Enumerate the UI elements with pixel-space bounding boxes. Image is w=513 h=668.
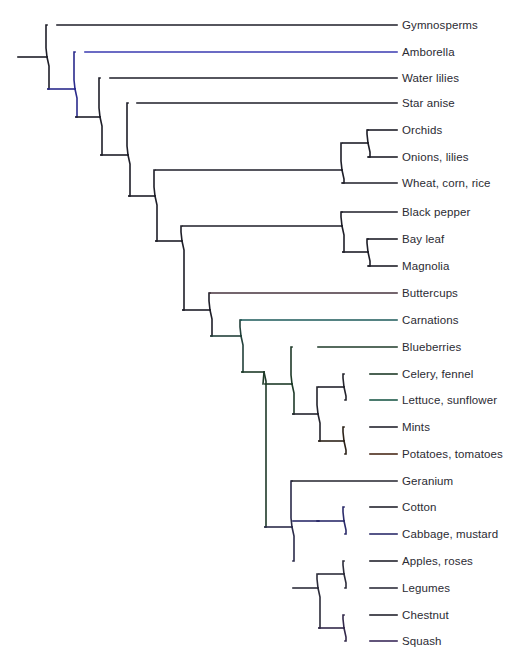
fork-lower-apple-legume [344, 574, 346, 588]
fork-lower-aster-rosid [264, 372, 266, 527]
fork-upper-eudicot-stem [181, 226, 182, 241]
fork-lower-core-eudicots [241, 336, 243, 372]
tip-label-apples-roses: Apples, roses [402, 555, 473, 567]
fork-lower-chestnut-squash [344, 628, 346, 641]
fork-lower-mesangiosperms [100, 117, 102, 155]
tip-label-squash: Squash [402, 635, 442, 647]
fork-lower-eudicots [210, 310, 212, 336]
tip-label-blueberries: Blueberries [402, 341, 461, 353]
tip-label-potatoes-tomatoes: Potatoes, tomatoes [402, 448, 503, 460]
fork-upper-monocots [341, 143, 342, 170]
fork-lower-root [47, 57, 49, 89]
fork-upper-celery-lettuce [343, 374, 344, 387]
tip-label-star-anise: Star anise [402, 97, 455, 109]
fork-lower-fabids [318, 588, 320, 628]
fork-upper-post-starAnise [127, 103, 128, 155]
fork-lower-mint-potato [344, 441, 346, 454]
fork-lower-rosids [292, 527, 294, 561]
fork-lower-angiosperms [75, 89, 77, 117]
fork-lower-asterids [292, 384, 294, 414]
fork-upper-orchid-onion [367, 130, 368, 143]
tip-label-buttercups: Buttercups [402, 287, 458, 299]
fork-lower-post-starAnise [128, 155, 130, 196]
tip-label-water-lilies: Water lilies [402, 72, 459, 84]
tip-label-chestnut: Chestnut [402, 609, 449, 621]
tip-label-geranium: Geranium [402, 475, 453, 487]
fork-lower-magnoliids [342, 226, 344, 252]
fork-lower-eudicot-stem [182, 241, 184, 310]
fork-upper-chestnut-squash [343, 615, 344, 628]
branch-layer [18, 25, 397, 641]
fork-upper-fabids [317, 574, 318, 588]
fork-lower-orchid-onion [368, 143, 370, 157]
fork-upper-mint-potato [343, 427, 344, 441]
fork-upper-rosids [291, 481, 292, 527]
tip-label-lettuce-sunflower: Lettuce, sunflower [402, 394, 497, 406]
tip-label-orchids: Orchids [402, 124, 442, 136]
fork-upper-bay-magnolia [367, 239, 368, 252]
fork-upper-root [46, 25, 47, 57]
tip-label-mints: Mints [402, 421, 430, 433]
tip-label-onions-lilies: Onions, lilies [402, 151, 469, 163]
tip-label-carnations: Carnations [402, 314, 459, 326]
tip-label-black-pepper: Black pepper [402, 206, 470, 218]
tip-label-gymnosperms: Gymnosperms [402, 19, 478, 31]
fork-upper-angiosperms [74, 52, 75, 89]
fork-upper-apple-legume [343, 561, 344, 574]
fork-lower-bay-magnolia [368, 252, 370, 266]
fork-upper-cotton-cabbage [343, 507, 344, 521]
fork-lower-celery-lettuce [344, 387, 346, 400]
fork-lower-asterid-core [318, 414, 320, 441]
tip-label-celery-fennel: Celery, fennel [402, 368, 474, 380]
tip-label-wheat-corn-rice: Wheat, corn, rice [402, 177, 491, 189]
tip-label-magnolia: Magnolia [402, 260, 449, 272]
fork-upper-asterids [291, 347, 292, 384]
fork-lower-monocots [342, 170, 344, 183]
fork-lower-mono-magno [155, 196, 157, 241]
tip-label-cotton: Cotton [402, 501, 436, 513]
tip-label-legumes: Legumes [402, 582, 450, 594]
fork-upper-asterid-core [317, 387, 318, 414]
tip-label-cabbage-mustard: Cabbage, mustard [402, 528, 498, 540]
fork-upper-magnoliids [341, 212, 342, 226]
fork-upper-eudicots [209, 293, 210, 310]
fork-upper-mono-magno [154, 170, 155, 196]
fork-upper-core-eudicots [240, 320, 241, 336]
fork-lower-cotton-cabbage [344, 521, 346, 534]
tip-label-amborella: Amborella [402, 46, 455, 58]
phylogenetic-tree-figure: GymnospermsAmborellaWater liliesStar ani… [0, 0, 513, 668]
fork-upper-mesangiosperms [99, 78, 100, 117]
tip-label-bay-leaf: Bay leaf [402, 233, 444, 245]
